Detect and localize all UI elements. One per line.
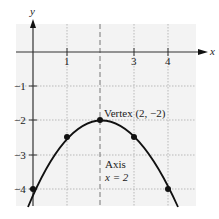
x-tick-3: 3 [131,55,137,67]
y-tick-neg2: −2 [14,114,26,126]
parabola-chart: 1 3 4 −1 −2 −3 −4 x y Vertex (2, −2) Axi… [0,0,219,219]
x-axis-label: x [209,45,215,57]
x-tick-1: 1 [64,55,70,67]
y-tick-neg1: −1 [14,80,26,92]
y-axis-arrow-icon [30,19,36,28]
x-axis-arrow-icon [198,49,208,55]
axis-equation-label: x = 2 [104,171,129,183]
x-tick-4: 4 [165,55,171,67]
y-tick-neg4: −4 [14,183,26,195]
vertex-label: Vertex (2, −2) [104,107,166,120]
axis-label: Axis [105,158,126,170]
y-axis-label: y [29,5,35,17]
y-tick-neg3: −3 [14,149,26,161]
